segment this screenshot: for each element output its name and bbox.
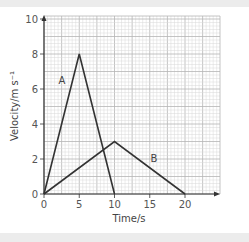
y-tick-label: 0 bbox=[32, 189, 38, 200]
y-tick-label: 4 bbox=[32, 119, 38, 130]
y-tick-label: 2 bbox=[32, 154, 38, 165]
x-axis-label: Time/s bbox=[111, 213, 145, 224]
x-tick-label: 20 bbox=[179, 199, 192, 210]
series-label-a: A bbox=[59, 75, 66, 86]
series-label-b: B bbox=[151, 153, 158, 164]
x-tick-label: 15 bbox=[143, 199, 156, 210]
y-axis-label: Velocity/m s⁻¹ bbox=[9, 71, 20, 141]
y-tick-label: 10 bbox=[25, 14, 38, 25]
y-tick-label: 6 bbox=[32, 84, 38, 95]
x-tick-label: 5 bbox=[76, 199, 82, 210]
x-tick-label: 0 bbox=[41, 199, 47, 210]
velocity-time-chart: AB 024681005101520 Time/s Velocity/m s⁻¹ bbox=[0, 0, 249, 242]
y-tick-label: 8 bbox=[32, 49, 38, 60]
graph-paper-grid bbox=[44, 16, 220, 194]
x-tick-label: 10 bbox=[108, 199, 121, 210]
